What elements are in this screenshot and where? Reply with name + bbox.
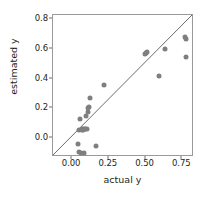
y-tick-label: 0.0 [35, 132, 48, 142]
data-point [162, 47, 167, 52]
data-point [183, 37, 188, 42]
x-tick-label: 0.50 [135, 158, 154, 168]
y-tick-label: 0.6 [35, 43, 48, 53]
data-point [157, 73, 162, 78]
data-point [77, 116, 82, 121]
x-tick-label: 0.75 [172, 158, 191, 168]
data-point [94, 143, 99, 148]
data-point [84, 126, 89, 131]
data-point [86, 105, 91, 110]
scatter-plot-figure: 0.00.20.40.60.8 0.000.250.500.75 actual … [0, 0, 204, 197]
x-tick-label: 0.25 [99, 158, 118, 168]
data-point [81, 150, 86, 155]
x-axis-ticklabels: 0.000.250.500.75 [52, 158, 193, 172]
x-tick-label: 0.00 [62, 158, 81, 168]
data-point [75, 141, 80, 146]
x-axis-title: actual y [52, 174, 193, 185]
y-tick-label: 0.8 [35, 13, 48, 23]
y-tick-label: 0.2 [35, 102, 48, 112]
y-axis-title: estimated y [8, 17, 19, 117]
data-point [184, 55, 189, 60]
y-tick-label: 0.4 [35, 73, 48, 83]
data-point [145, 49, 150, 54]
data-point [102, 83, 107, 88]
data-points-layer [53, 15, 192, 155]
plot-area [52, 14, 193, 156]
data-point [87, 95, 92, 100]
